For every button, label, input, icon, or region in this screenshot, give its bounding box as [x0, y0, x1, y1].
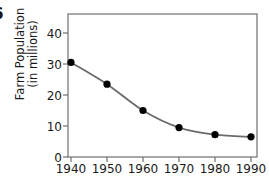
y-axis-ticks	[63, 33, 68, 157]
x-axis-tick-labels: 1940 1950 1960 1970 1980 1990	[0, 163, 269, 183]
x-tick-label: 1940	[51, 163, 91, 175]
figure-panel: 6 Farm Population (in millions) 40 30 20…	[0, 0, 269, 191]
data-point-1960	[139, 107, 146, 114]
data-point-1970	[175, 124, 182, 131]
x-tick-label: 1950	[87, 163, 127, 175]
x-tick-label: 1990	[231, 163, 269, 175]
x-tick-label: 1980	[195, 163, 235, 175]
x-tick-label: 1970	[159, 163, 199, 175]
data-point-1950	[103, 81, 110, 88]
data-line-farm-population	[71, 62, 251, 136]
data-point-1940	[67, 59, 74, 66]
data-markers-farm-population	[67, 59, 254, 141]
x-tick-label: 1960	[123, 163, 163, 175]
data-point-1980	[211, 131, 218, 138]
data-point-1990	[247, 133, 254, 140]
